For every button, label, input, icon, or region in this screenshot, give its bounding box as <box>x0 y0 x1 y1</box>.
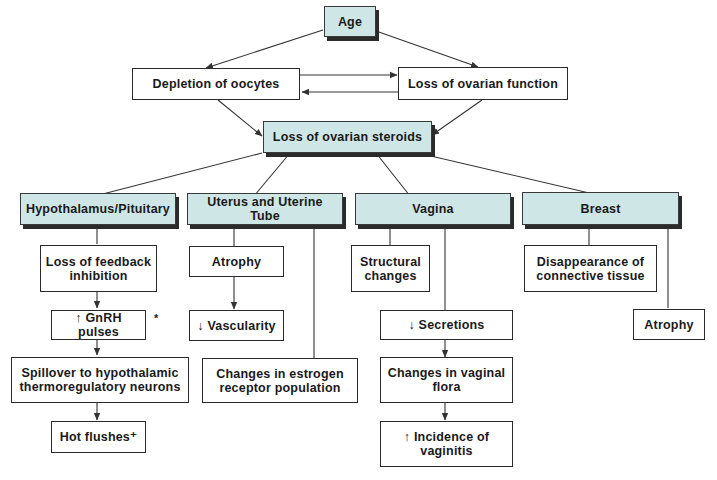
node-loss-of-ovarian-function: Loss of ovarian function <box>398 67 568 100</box>
gnrh-asterisk-note: * <box>154 312 158 324</box>
node-structural-changes: Structural changes <box>351 245 430 292</box>
node-changes-in-estrogen-receptor-population: Changes in estrogen receptor population <box>202 358 358 403</box>
node-breast-atrophy: Atrophy <box>633 309 705 340</box>
node-decreased-secretions: ↓ Secretions <box>380 310 513 340</box>
node-uterus-atrophy: Atrophy <box>189 246 284 277</box>
node-breast: Breast <box>522 192 679 225</box>
node-depletion-of-oocytes: Depletion of oocytes <box>132 68 300 100</box>
node-disappearance-of-connective-tissue: Disappearance of connective tissue <box>524 245 657 292</box>
node-age: Age <box>324 6 376 37</box>
node-uterus-and-uterine-tube: Uterus and Uterine Tube <box>187 193 343 225</box>
node-spillover-to-thermoregulatory-neurons: Spillover to hypothalamic thermoregulato… <box>11 357 189 403</box>
node-loss-of-ovarian-steroids: Loss of ovarian steroids <box>263 121 432 153</box>
node-decreased-vascularity: ↓ Vascularity <box>189 310 284 341</box>
node-changes-in-vaginal-flora: Changes in vaginal flora <box>380 357 513 403</box>
node-increased-incidence-of-vaginitis: ↑ Incidence of vaginitis <box>380 421 513 467</box>
node-loss-of-feedback-inhibition: Loss of feedback inhibition <box>40 245 157 292</box>
node-hypothalamus-pituitary: Hypothalamus/Pituitary <box>20 193 176 225</box>
menopause-flow-diagram: Age Depletion of oocytes Loss of ovarian… <box>0 0 717 480</box>
node-hot-flushes: Hot flushes⁺ <box>51 421 146 453</box>
node-gnrh-pulses: ↑ GnRH pulses <box>51 310 146 340</box>
node-vagina: Vagina <box>355 193 511 225</box>
connector-lines <box>0 0 717 480</box>
